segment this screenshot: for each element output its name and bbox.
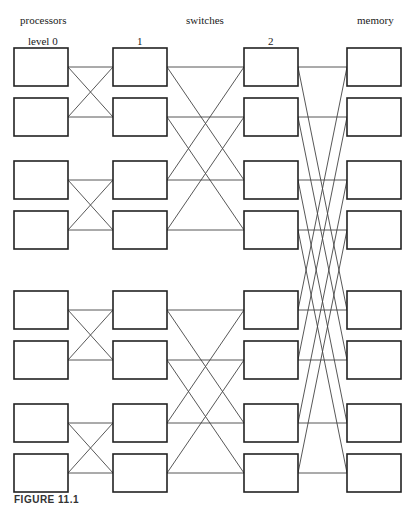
switch-level-2-box-7	[244, 454, 298, 492]
switch-level-1-box-0	[113, 48, 167, 86]
memory-box-2	[347, 161, 401, 199]
switch-level-1-box-3	[113, 211, 167, 249]
switch-level-2-box-6	[244, 404, 298, 442]
switch-level-2-box-3	[244, 211, 298, 249]
processor-box-1	[14, 98, 68, 136]
switch-level-2-box-0	[244, 48, 298, 86]
switch-level-1-box-5	[113, 341, 167, 379]
memory-box-5	[347, 341, 401, 379]
memory-box-1	[347, 98, 401, 136]
node-boxes	[14, 48, 401, 492]
memory-box-4	[347, 291, 401, 329]
processor-box-6	[14, 404, 68, 442]
switch-level-1-box-7	[113, 454, 167, 492]
switch-level-2-box-5	[244, 341, 298, 379]
memory-box-3	[347, 211, 401, 249]
memory-box-0	[347, 48, 401, 86]
memory-box-7	[347, 454, 401, 492]
switch-level-1-box-4	[113, 291, 167, 329]
processor-box-2	[14, 161, 68, 199]
processor-box-0	[14, 48, 68, 86]
switch-level-2-box-4	[244, 291, 298, 329]
processor-box-4	[14, 291, 68, 329]
switch-level-1-box-1	[113, 98, 167, 136]
switch-level-2-box-1	[244, 98, 298, 136]
figure-caption: FIGURE 11.1	[14, 494, 79, 505]
processor-box-3	[14, 211, 68, 249]
switch-level-1-box-6	[113, 404, 167, 442]
connection-wires	[68, 67, 347, 473]
memory-box-6	[347, 404, 401, 442]
switch-level-1-box-2	[113, 161, 167, 199]
processor-box-5	[14, 341, 68, 379]
switch-level-2-box-2	[244, 161, 298, 199]
processor-box-7	[14, 454, 68, 492]
